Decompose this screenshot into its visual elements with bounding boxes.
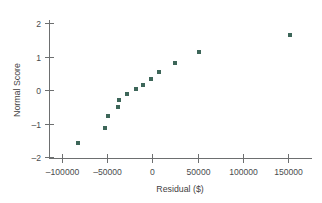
data-point xyxy=(288,33,292,37)
data-point xyxy=(106,114,110,118)
x-tick-label: 50000 xyxy=(187,167,211,177)
x-tick-label: 150000 xyxy=(274,167,303,177)
data-point xyxy=(173,61,177,65)
y-tick-label: 2 xyxy=(36,19,41,29)
x-tick-label: 0 xyxy=(150,167,155,177)
x-axis-title: Residual ($) xyxy=(156,184,203,194)
x-tick-label: –100000 xyxy=(46,167,80,177)
data-point xyxy=(134,87,138,91)
scatter-plot-canvas: –2–1012 –100000–50000050000100000150000 … xyxy=(0,0,322,203)
data-point xyxy=(116,105,120,109)
y-tick-label: 0 xyxy=(36,86,41,96)
data-point xyxy=(125,92,129,96)
data-point xyxy=(141,83,145,87)
y-tick-label: –1 xyxy=(31,120,41,130)
y-axis-title: Normal Score xyxy=(12,63,22,117)
data-point xyxy=(157,70,161,74)
data-point xyxy=(117,98,121,102)
x-tick-label: 100000 xyxy=(229,167,258,177)
data-point xyxy=(149,77,153,81)
data-point xyxy=(76,141,80,145)
y-tick-label: 1 xyxy=(36,53,41,63)
chart-figure: –2–1012 –100000–50000050000100000150000 … xyxy=(0,0,322,203)
data-point xyxy=(197,50,201,54)
y-tick-label: –2 xyxy=(31,153,41,163)
data-point xyxy=(103,126,107,130)
x-tick-label: –50000 xyxy=(93,167,122,177)
